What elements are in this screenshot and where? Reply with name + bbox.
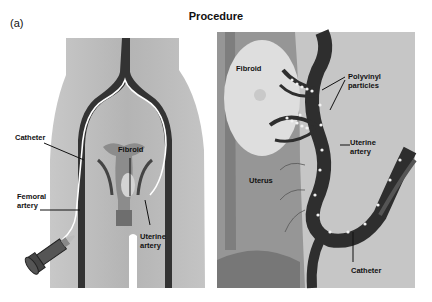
label-uterus: Uterus bbox=[249, 176, 273, 185]
label-polyvinyl-particles: Polyvinyl particles bbox=[348, 72, 381, 90]
label-catheter-right: Catheter bbox=[351, 266, 381, 275]
label-uterine-artery-right: Uterine artery bbox=[350, 138, 376, 156]
label-fibroid-right: Fibroid bbox=[236, 64, 261, 73]
